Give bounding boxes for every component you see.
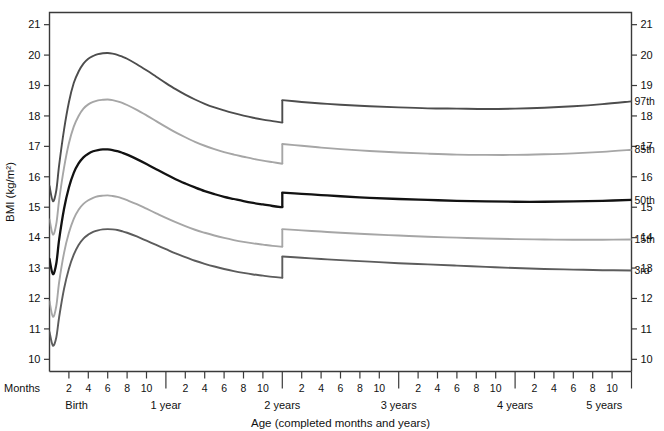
plot-frame [50, 13, 632, 372]
y-tick-label-left: 10 [28, 353, 40, 365]
x-month-tick-label: 4 [551, 382, 557, 394]
x-month-tick-label: 6 [454, 382, 460, 394]
chart-canvas: 1010111112121313141415151616171718181919… [0, 0, 664, 431]
x-month-tick-label: 8 [590, 382, 596, 394]
curve-segment-infant-15th [50, 195, 283, 316]
series-50th [50, 149, 632, 274]
curve-segment-child-3rd [282, 257, 631, 271]
x-month-tick-label: 8 [473, 382, 479, 394]
x-month-tick-label: 4 [202, 382, 208, 394]
y-tick-label-right: 21 [641, 18, 653, 30]
x-month-tick-label: 4 [318, 382, 324, 394]
y-tick-label-left: 18 [28, 110, 40, 122]
y-tick-label-left: 14 [28, 231, 40, 243]
y-tick-label-right: 11 [641, 323, 652, 335]
series-85th [50, 100, 632, 235]
x-year-label-2: 2 years [264, 399, 301, 411]
x-month-tick-label: 2 [66, 382, 72, 394]
y-tick-label-left: 11 [29, 323, 40, 335]
x-year-label-4: 4 years [497, 399, 534, 411]
percentile-label-3rd: 3rd [635, 264, 650, 276]
x-month-tick-label: 10 [257, 382, 269, 394]
x-month-tick-label: 10 [141, 382, 153, 394]
curve-segment-child-85th [282, 144, 631, 155]
x-month-tick-label: 2 [415, 382, 421, 394]
series-15th [50, 195, 632, 316]
x-month-tick-label: 6 [221, 382, 227, 394]
y-tick-label-left: 16 [28, 171, 40, 183]
x-month-tick-label: 10 [373, 382, 385, 394]
x-month-tick-label: 10 [490, 382, 502, 394]
curve-segment-infant-50th [50, 149, 283, 274]
y-tick-label-left: 12 [28, 292, 40, 304]
x-month-tick-label: 6 [338, 382, 344, 394]
percentile-label-15th: 15th [635, 233, 656, 245]
x-year-label-1: 1 year [151, 399, 182, 411]
y-tick-label-right: 20 [641, 49, 653, 61]
y-tick-label-left: 15 [28, 201, 40, 213]
x-month-tick-label: 4 [435, 382, 441, 394]
series-97th [50, 53, 632, 201]
x-month-tick-label: 6 [105, 382, 111, 394]
x-year-label-0: Birth [65, 399, 88, 411]
y-tick-label-left: 17 [28, 140, 40, 152]
y-tick-label-right: 16 [641, 171, 653, 183]
bmi-growth-chart: 1010111112121313141415151616171718181919… [0, 0, 664, 431]
x-month-tick-label: 2 [532, 382, 538, 394]
series-3rd [50, 229, 632, 346]
x-month-tick-label: 2 [182, 382, 188, 394]
percentile-label-97th: 97th [635, 95, 656, 107]
y-axis-title: BMI (kg/m²) [4, 162, 16, 222]
percentile-label-50th: 50th [635, 194, 656, 206]
curve-segment-infant-85th [50, 100, 283, 235]
y-tick-label-left: 13 [28, 262, 40, 274]
curve-segment-infant-3rd [50, 229, 283, 346]
x-month-tick-label: 4 [85, 382, 91, 394]
x-month-tick-label: 6 [570, 382, 576, 394]
x-axis-title: Age (completed months and years) [251, 417, 430, 429]
curve-segment-child-15th [282, 229, 631, 240]
y-tick-label-right: 10 [641, 353, 653, 365]
curve-segment-child-97th [282, 100, 631, 109]
x-month-tick-label: 2 [299, 382, 305, 394]
y-tick-label-left: 21 [28, 18, 40, 30]
months-axis-label: Months [4, 382, 41, 394]
y-tick-label-right: 18 [641, 110, 653, 122]
percentile-label-85th: 85th [635, 143, 656, 155]
x-month-tick-label: 8 [241, 382, 247, 394]
y-tick-label-right: 12 [641, 292, 653, 304]
y-tick-label-left: 20 [28, 49, 40, 61]
curve-segment-child-50th [282, 193, 631, 202]
x-month-tick-label: 8 [124, 382, 130, 394]
x-year-label-5: 5 years [586, 399, 623, 411]
x-year-label-3: 3 years [381, 399, 418, 411]
x-month-tick-label: 10 [606, 382, 618, 394]
y-tick-label-left: 19 [28, 79, 40, 91]
y-tick-label-right: 19 [641, 79, 653, 91]
x-month-tick-label: 8 [357, 382, 363, 394]
